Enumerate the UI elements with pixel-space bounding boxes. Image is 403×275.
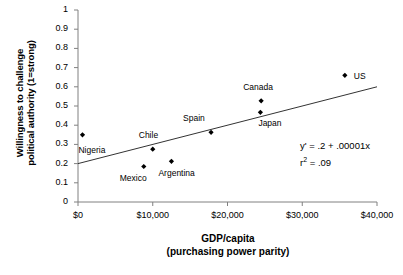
- point-label-us: US: [354, 72, 366, 81]
- scatter-chart: 00.10.20.30.40.50.60.70.80.91 $0$10,000$…: [0, 0, 403, 275]
- y-axis-title-line2: political authority (1=strong): [25, 0, 36, 208]
- y-tick-label: 0.9: [38, 24, 68, 33]
- y-axis-title-line1: Willingness to challenge: [14, 0, 25, 208]
- r-squared-value: r2 = .09: [300, 153, 370, 170]
- x-tick-label: $10,000: [123, 211, 183, 220]
- y-axis-title: Willingness to challenge political autho…: [14, 0, 36, 208]
- r2-rest: = .09: [307, 157, 331, 168]
- x-axis-title: GDP/capita (purchasing power parity): [78, 232, 378, 258]
- x-axis-title-line1: GDP/capita: [78, 232, 378, 245]
- point-label-nigeria: Nigeria: [78, 146, 105, 155]
- y-tick-label: 0.1: [38, 178, 68, 187]
- y-tick-label: 0.3: [38, 139, 68, 148]
- regression-annotation: y' = .2 + .00001x r2 = .09: [300, 139, 370, 170]
- y-tick-label: 0.7: [38, 63, 68, 72]
- y-tick-label: 0.8: [38, 43, 68, 52]
- x-tick-label: $20,000: [198, 211, 258, 220]
- point-label-canada: Canada: [243, 83, 273, 92]
- regression-equation: y' = .2 + .00001x: [300, 139, 370, 153]
- point-label-mexico: Mexico: [120, 174, 147, 183]
- y-tick-label: 0.4: [38, 120, 68, 129]
- y-tick-label: 0: [38, 197, 68, 206]
- point-label-argentina: Argentina: [158, 169, 194, 178]
- y-tick-label: 1: [38, 5, 68, 14]
- x-tick-label: $30,000: [272, 211, 332, 220]
- x-tick-label: $40,000: [347, 211, 403, 220]
- point-label-japan: Japan: [258, 119, 281, 128]
- x-axis-title-line2: (purchasing power parity): [78, 245, 378, 258]
- y-tick-label: 0.6: [38, 82, 68, 91]
- point-label-chile: Chile: [139, 131, 158, 140]
- equation-rest: = .2 + .00001x: [307, 140, 370, 151]
- y-tick-label: 0.5: [38, 101, 68, 110]
- point-label-spain: Spain: [183, 114, 205, 123]
- x-tick-label: $0: [48, 211, 108, 220]
- y-tick-label: 0.2: [38, 159, 68, 168]
